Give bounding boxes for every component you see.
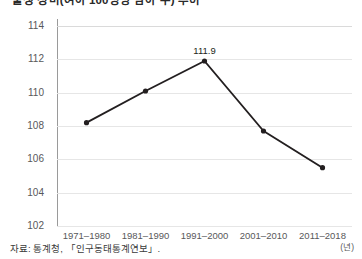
chart-page: 출생 성비(여아 100명당 남아 수) 추이 1141121101081061… — [0, 0, 362, 259]
line-chart: 114112110108106104102 1971–19801981–1990… — [0, 7, 362, 229]
x-axis-unit-label: (년) — [340, 243, 354, 252]
page-title: 출생 성비(여아 100명당 남아 수) 추이 — [12, 0, 200, 7]
data-label-1991-2000: 111.9 — [193, 46, 215, 56]
data-point-1971-1980 — [84, 120, 89, 125]
chart-title-clipped: 출생 성비(여아 100명당 남아 수) 추이 — [0, 0, 362, 7]
x-tick-label-2011-2018: 2011–2018 — [275, 231, 362, 241]
data-point-1981-1990 — [143, 88, 148, 93]
source-note: 자료: 통계청, 「인구동태통계연보」. — [10, 243, 160, 254]
series-line — [87, 61, 323, 168]
data-point-1991-2000 — [202, 58, 207, 63]
data-point-2001-2010 — [261, 128, 266, 133]
data-series — [0, 7, 362, 229]
data-point-2011-2018 — [320, 165, 325, 170]
